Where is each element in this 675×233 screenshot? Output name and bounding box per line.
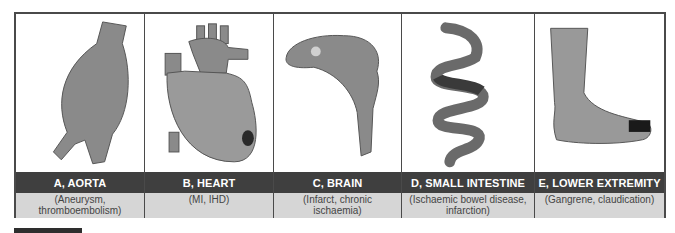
panel-subtitle: (MI, IHD) (145, 193, 273, 218)
panel-small-intestine: D, SMALL INTESTINE (Ischaemic bowel dise… (401, 12, 534, 218)
panel-lower-extremity: E, LOWER EXTREMITY (Gangrene, claudicati… (534, 12, 666, 218)
brain-illustration (274, 12, 401, 172)
panel-title: B, HEART (145, 172, 273, 194)
intestine-icon (402, 14, 534, 172)
heart-icon (145, 14, 273, 172)
heart-illustration (145, 12, 273, 172)
panel-title: C, BRAIN (274, 172, 401, 194)
panel-title: E, LOWER EXTREMITY (535, 172, 664, 194)
foot-icon (535, 14, 664, 172)
figure-label-bar (14, 228, 82, 233)
panel-title: A, AORTA (16, 172, 144, 194)
brain-icon (274, 14, 401, 172)
aorta-icon (16, 14, 144, 172)
figure-frame: A, AORTA (Aneurysm, thromboembolism) B, … (14, 12, 666, 218)
panel-title: D, SMALL INTESTINE (402, 172, 534, 194)
panel-brain: C, BRAIN (Infarct, chronic ischaemia) (273, 12, 401, 218)
panel-heart: B, HEART (MI, IHD) (144, 12, 273, 218)
panel-subtitle: (Gangrene, claudication) (535, 193, 664, 218)
panel-subtitle: (Aneurysm, thromboembolism) (16, 193, 144, 218)
aorta-illustration (16, 12, 144, 172)
panel-subtitle: (Infarct, chronic ischaemia) (274, 193, 401, 218)
intestine-illustration (402, 12, 534, 172)
panel-subtitle: (Ischaemic bowel disease, infarction) (402, 193, 534, 218)
panel-aorta: A, AORTA (Aneurysm, thromboembolism) (14, 12, 144, 218)
foot-illustration (535, 12, 664, 172)
